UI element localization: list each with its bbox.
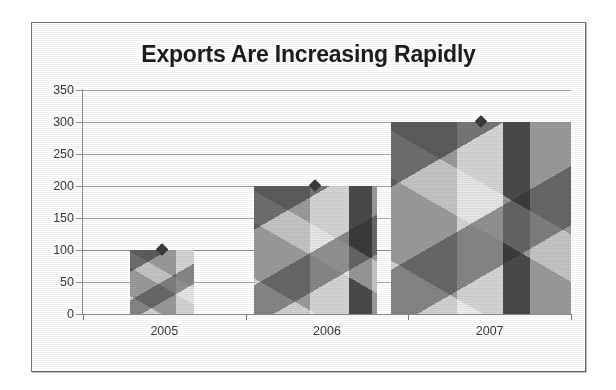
gridline-0 [83, 314, 571, 315]
x-tick-mark-3 [571, 314, 572, 320]
y-tick-mark-0 [76, 314, 83, 315]
y-tick-mark-250 [76, 154, 83, 155]
y-tick-label-300: 300 [34, 115, 74, 129]
plot-area [83, 90, 571, 314]
y-tick-label-0: 0 [34, 307, 74, 321]
y-tick-mark-300 [76, 122, 83, 123]
bar-2005[interactable] [130, 250, 194, 314]
x-tick-label-2005: 2005 [150, 324, 178, 338]
bar-2006[interactable] [254, 186, 377, 314]
y-tick-label-250: 250 [34, 147, 74, 161]
bar-2007[interactable] [391, 122, 571, 314]
y-tick-label-100: 100 [34, 243, 74, 257]
bar-texture [130, 250, 194, 314]
x-tick-mark-0 [83, 314, 84, 320]
chart-title: Exports Are Increasing Rapidly [32, 41, 585, 68]
y-tick-label-200: 200 [34, 179, 74, 193]
x-tick-label-2006: 2006 [313, 324, 341, 338]
gridline-350 [83, 90, 571, 91]
y-tick-mark-100 [76, 250, 83, 251]
y-tick-mark-350 [76, 90, 83, 91]
y-tick-mark-150 [76, 218, 83, 219]
x-tick-label-2007: 2007 [476, 324, 504, 338]
chart-frame: Exports Are Increasing Rapidly 050100150… [31, 22, 586, 372]
y-tick-label-150: 150 [34, 211, 74, 225]
bar-texture [254, 186, 377, 314]
y-tick-label-50: 50 [34, 275, 74, 289]
x-tick-mark-1 [246, 314, 247, 320]
y-tick-mark-200 [76, 186, 83, 187]
y-axis-labels: 050100150200250300350 [32, 23, 74, 373]
bar-texture [391, 122, 571, 314]
x-tick-mark-2 [408, 314, 409, 320]
y-tick-mark-50 [76, 282, 83, 283]
y-tick-label-350: 350 [34, 83, 74, 97]
